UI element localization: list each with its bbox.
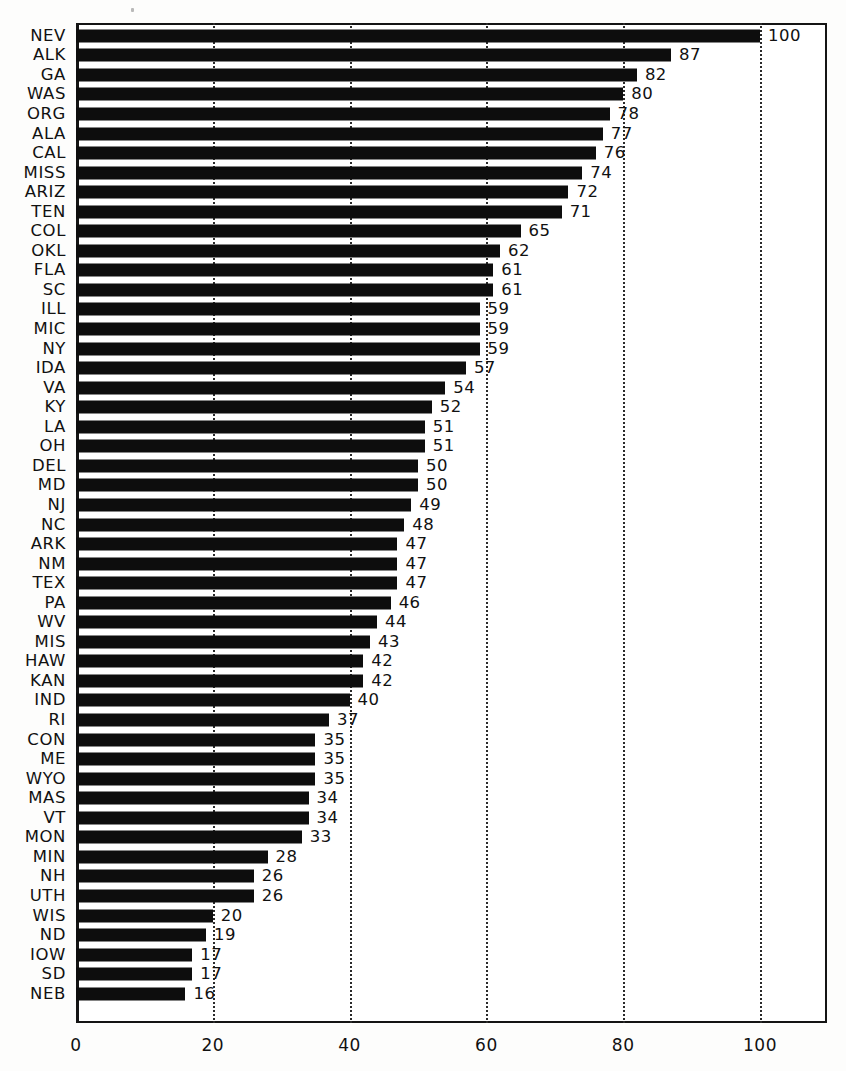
- category-label: KAN: [30, 673, 66, 690]
- bar: [76, 538, 397, 551]
- bar-row: FLA61: [0, 261, 846, 281]
- bar-row: TEX47: [0, 573, 846, 593]
- category-label: NC: [41, 516, 66, 533]
- bar: [76, 479, 418, 492]
- bar: [76, 889, 254, 902]
- bar-row: IND40: [0, 691, 846, 711]
- bar: [76, 577, 397, 590]
- category-label: PA: [45, 594, 66, 611]
- category-label: IOW: [30, 946, 66, 963]
- bar-row: TEN71: [0, 202, 846, 222]
- bar-row: VA54: [0, 378, 846, 398]
- bar-row: DEL50: [0, 456, 846, 476]
- bar: [76, 166, 582, 179]
- bar-row: IOW17: [0, 945, 846, 965]
- bar-row: CAL76: [0, 143, 846, 163]
- value-label: 54: [453, 379, 475, 396]
- bar: [76, 968, 192, 981]
- bar-row: ORG78: [0, 104, 846, 124]
- bar-row: LA51: [0, 417, 846, 437]
- category-label: ALK: [33, 47, 66, 64]
- category-label: VA: [43, 379, 66, 396]
- category-label: ORG: [27, 106, 66, 123]
- value-label: 76: [604, 145, 626, 162]
- category-label: MON: [25, 829, 66, 846]
- bar: [76, 68, 637, 81]
- value-label: 52: [440, 399, 462, 416]
- value-label: 35: [323, 731, 345, 748]
- value-label: 47: [405, 555, 427, 572]
- bar-row: GA82: [0, 65, 846, 85]
- bar: [76, 283, 493, 296]
- category-label: MD: [38, 477, 66, 494]
- bar-row: VT34: [0, 808, 846, 828]
- bar: [76, 459, 418, 472]
- bar-row: MAS34: [0, 788, 846, 808]
- value-label: 59: [488, 321, 510, 338]
- value-label: 16: [193, 985, 215, 1002]
- bar: [76, 440, 425, 453]
- value-label: 17: [200, 966, 222, 983]
- value-label: 35: [323, 751, 345, 768]
- value-label: 26: [262, 868, 284, 885]
- bar-row: WYO35: [0, 769, 846, 789]
- category-label: ARK: [31, 536, 66, 553]
- value-label: 46: [399, 594, 421, 611]
- bar: [76, 616, 377, 629]
- x-tick-label-60: 60: [475, 1037, 498, 1054]
- value-label: 40: [358, 692, 380, 709]
- bar: [76, 362, 466, 375]
- value-label: 28: [276, 849, 298, 866]
- bar-row: ALA77: [0, 124, 846, 144]
- value-label: 80: [631, 86, 653, 103]
- bar: [76, 401, 432, 414]
- category-label: ND: [40, 927, 66, 944]
- value-label: 82: [645, 67, 667, 84]
- category-label: NH: [40, 868, 66, 885]
- category-label: UTH: [30, 888, 66, 905]
- bar: [76, 323, 480, 336]
- bar-row: HAW42: [0, 652, 846, 672]
- bar: [76, 635, 370, 648]
- bar-row: ILL59: [0, 300, 846, 320]
- bar-row: OH51: [0, 437, 846, 457]
- bar: [76, 88, 623, 101]
- value-label: 42: [371, 673, 393, 690]
- value-label: 61: [501, 262, 523, 279]
- category-label: MIC: [34, 321, 66, 338]
- value-label: 35: [323, 770, 345, 787]
- value-label: 78: [618, 106, 640, 123]
- bar-row: ME35: [0, 749, 846, 769]
- category-label: MIS: [35, 634, 66, 651]
- value-label: 43: [378, 634, 400, 651]
- bar: [76, 518, 404, 531]
- category-label: DEL: [32, 458, 66, 475]
- bar-row: MIC59: [0, 319, 846, 339]
- bar-row: UTH26: [0, 886, 846, 906]
- value-label: 34: [317, 810, 339, 827]
- bar-row: PA46: [0, 593, 846, 613]
- bar-row: NEV100: [0, 26, 846, 46]
- category-label: WV: [37, 614, 66, 631]
- value-label: 49: [419, 497, 441, 514]
- category-label: NJ: [48, 497, 66, 514]
- category-label: NY: [42, 340, 66, 357]
- value-label: 20: [221, 907, 243, 924]
- scan-artifact-speck: [131, 8, 134, 12]
- bar-row: WIS20: [0, 906, 846, 926]
- bar-row: ALK87: [0, 46, 846, 66]
- bar-row: IDA57: [0, 358, 846, 378]
- bar: [76, 948, 192, 961]
- category-label: RI: [48, 712, 66, 729]
- bar-row: MD50: [0, 476, 846, 496]
- category-label: ALA: [32, 125, 66, 142]
- bar-row: KAN42: [0, 671, 846, 691]
- bar-row: NH26: [0, 867, 846, 887]
- value-label: 17: [200, 946, 222, 963]
- bar-row: RI37: [0, 710, 846, 730]
- x-tick-label-20: 20: [201, 1037, 224, 1054]
- category-label: TEN: [31, 203, 66, 220]
- category-label: GA: [41, 67, 66, 84]
- category-label: CON: [27, 731, 66, 748]
- bar-row: SC61: [0, 280, 846, 300]
